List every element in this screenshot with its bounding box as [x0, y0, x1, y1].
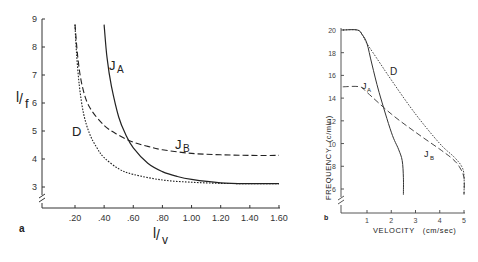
panel-b-chart: 6810121416182012345 FREQUENCY (c/min) VE…: [324, 27, 466, 235]
svg-text:A: A: [367, 87, 371, 93]
svg-text:J: J: [175, 137, 182, 152]
panel-b-axes: [338, 28, 465, 213]
panel-a-series: [75, 25, 279, 184]
panel-b-label-JB: J B: [424, 149, 434, 161]
panel-b-tick-labels: 6810121416182012345: [328, 27, 466, 224]
panel-a-label-D: D: [72, 124, 81, 139]
y-tick-label: 20: [328, 27, 336, 34]
y-tick-label: 6: [32, 98, 37, 108]
panel-a-chart: 3456789.20.40.60.801.001.201.401.60 l / …: [16, 14, 288, 247]
panel-a-label-JB: J B: [175, 137, 190, 154]
panel-a-label: a: [19, 223, 25, 234]
x-tick-label: 1.60: [270, 213, 288, 223]
svg-text:/: /: [156, 227, 160, 243]
y-tick-label: 9: [32, 14, 37, 24]
svg-text:/: /: [19, 91, 23, 107]
axis-break-mark: [338, 200, 344, 204]
x-tick-label: 2: [389, 217, 393, 224]
x-tick-label: 1.00: [183, 213, 201, 223]
panel-b-x-axis-label: VELOCITY (cm/sec): [373, 226, 456, 235]
y-tick-label: 4: [32, 154, 37, 164]
y-tick-label: 18: [328, 50, 336, 57]
panel-b-label-JA: J A: [362, 81, 371, 93]
panel-a-label-JA: J A: [109, 58, 124, 75]
panel-a-x-axis-label: l / v: [153, 225, 168, 247]
panel-b-y-axis-label: FREQUENCY (c/min): [324, 115, 333, 200]
y-tick-label: 5: [32, 126, 37, 136]
x-tick-label: .80: [156, 213, 169, 223]
y-tick-label: 16: [328, 72, 336, 79]
y-tick-label: 3: [32, 182, 37, 192]
svg-text:B: B: [183, 143, 190, 154]
panel-b-series: [343, 30, 465, 195]
svg-text:J: J: [362, 81, 367, 91]
x-tick-label: 1.20: [212, 213, 230, 223]
x-tick-label: .40: [98, 213, 111, 223]
svg-text:J: J: [424, 149, 429, 159]
svg-text:A: A: [117, 64, 124, 75]
x-tick-label: 3: [414, 217, 418, 224]
y-tick-label: 7: [32, 70, 37, 80]
panel-b-label: b: [324, 214, 328, 221]
panel-a-y-axis-label: l / f: [16, 89, 29, 111]
series-JA-line: [343, 30, 404, 195]
x-tick-label: .20: [69, 213, 82, 223]
svg-text:v: v: [162, 233, 168, 247]
x-tick-label: 1.40: [241, 213, 259, 223]
panel-b-label-D: D: [390, 66, 397, 77]
svg-text:B: B: [430, 155, 434, 161]
svg-text:f: f: [25, 96, 29, 111]
y-tick-label: 14: [328, 95, 336, 102]
axis-break-mark: [39, 198, 45, 202]
x-tick-label: .60: [127, 213, 140, 223]
x-tick-label: 4: [438, 217, 442, 224]
series-JA-line: [104, 25, 279, 184]
x-tick-label: 5: [462, 217, 466, 224]
figure-canvas: 3456789.20.40.60.801.001.201.401.60 l / …: [0, 0, 478, 262]
y-tick-label: 8: [32, 42, 37, 52]
panel-a-tick-labels: 3456789.20.40.60.801.001.201.401.60: [32, 14, 288, 223]
x-tick-label: 1: [365, 217, 369, 224]
svg-text:J: J: [109, 58, 116, 73]
